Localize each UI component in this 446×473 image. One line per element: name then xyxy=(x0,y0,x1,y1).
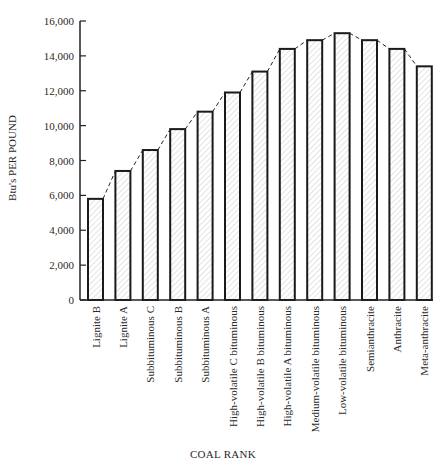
bar xyxy=(143,150,158,300)
category-label: High-volatile C bituminous xyxy=(227,306,239,427)
y-tick-label: 10,000 xyxy=(44,120,75,132)
bar xyxy=(417,66,432,300)
category-label: Lignite B xyxy=(90,306,102,348)
x-axis-title: COAL RANK xyxy=(0,448,446,460)
category-label: Subbituminous A xyxy=(199,306,211,383)
bars xyxy=(88,33,432,300)
bar-chart: 02,0004,0006,0008,00010,00012,00014,0001… xyxy=(0,0,446,473)
category-label: Semianthracite xyxy=(364,306,376,372)
category-label: Medium-volatile bituminous xyxy=(309,306,321,432)
category-label: Meta-anthracite xyxy=(418,306,430,376)
category-label: High-volatile A bituminous xyxy=(281,306,293,426)
bar xyxy=(280,49,295,300)
y-tick-label: 2,000 xyxy=(49,259,74,271)
category-label: Low-volatile bituminous xyxy=(336,306,348,415)
bar xyxy=(170,129,185,300)
y-tick-label: 8,000 xyxy=(49,155,74,167)
y-axis: 02,0004,0006,0008,00010,00012,00014,0001… xyxy=(44,15,86,306)
y-tick-label: 14,000 xyxy=(44,50,75,62)
bar xyxy=(362,40,377,300)
category-label: Anthracite xyxy=(391,306,403,353)
y-tick-label: 12,000 xyxy=(44,85,75,97)
bar xyxy=(252,72,267,300)
category-label: Subbituminous C xyxy=(144,306,156,383)
bar xyxy=(335,33,350,300)
bar xyxy=(389,49,404,300)
y-tick-label: 6,000 xyxy=(49,189,74,201)
bar xyxy=(225,92,240,300)
category-label: Subbituminous B xyxy=(172,306,184,383)
bar xyxy=(88,199,103,300)
category-label: High-volatile B bituminous xyxy=(254,306,266,427)
y-axis-title: Btu's PER POUND xyxy=(6,98,18,218)
bar xyxy=(115,171,130,300)
x-axis: Lignite BLignite ASubbituminous CSubbitu… xyxy=(80,300,433,432)
y-tick-label: 0 xyxy=(69,294,75,306)
y-tick-label: 16,000 xyxy=(44,15,75,27)
category-label: Lignite A xyxy=(117,306,129,348)
y-tick-label: 4,000 xyxy=(49,224,74,236)
bar xyxy=(307,40,322,300)
bar xyxy=(198,112,213,300)
